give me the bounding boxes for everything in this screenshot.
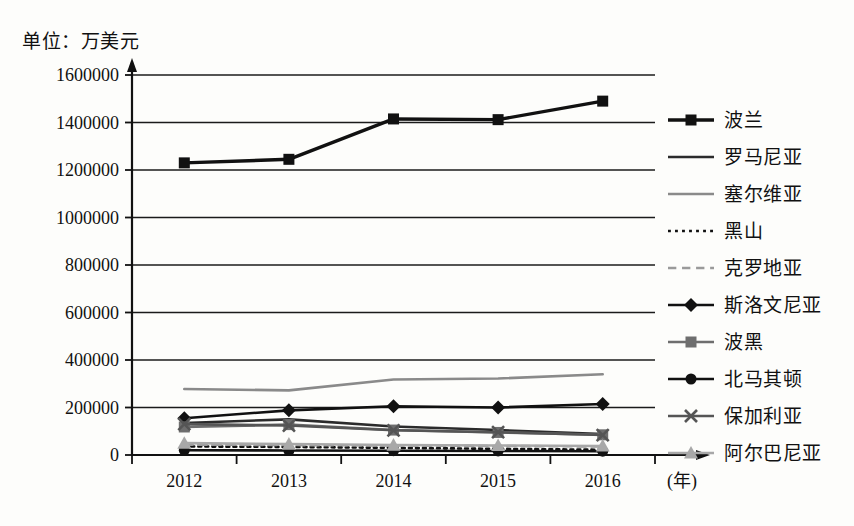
- y-tick-label: 800000: [65, 255, 119, 275]
- legend: 波兰罗马尼亚塞尔维亚黑山克罗地亚斯洛文尼亚波黑北马其顿保加利亚阿尔巴尼亚: [668, 110, 822, 464]
- y-tick-label: 1600000: [56, 65, 119, 85]
- gridlines: [132, 75, 655, 408]
- series-line: [184, 101, 602, 163]
- legend-item-4[interactable]: 克罗地亚: [668, 258, 802, 279]
- series-2: [184, 374, 602, 390]
- data-point-square: [388, 113, 399, 124]
- y-axis-ticks: 0200000400000600000800000100000012000001…: [56, 65, 132, 465]
- legend-label: 波兰: [724, 110, 763, 131]
- legend-label: 阿尔巴尼亚: [724, 443, 822, 464]
- x-tick-label: 2014: [376, 471, 412, 491]
- data-series: [177, 96, 609, 457]
- x-tick-label: 2013: [271, 471, 307, 491]
- data-point-diamond: [684, 298, 698, 312]
- y-tick-label: 0: [110, 445, 119, 465]
- legend-item-9[interactable]: 阿尔巴尼亚: [668, 443, 822, 464]
- x-tick-label: 2015: [480, 471, 516, 491]
- data-point-diamond: [387, 399, 401, 413]
- data-point-square: [686, 337, 697, 348]
- legend-label: 罗马尼亚: [724, 147, 802, 168]
- legend-label: 波黑: [724, 332, 763, 353]
- x-axis-ticks: 20122013201420152016(年): [132, 455, 697, 492]
- x-tick-label: 2016: [585, 471, 621, 491]
- series-line: [184, 374, 602, 390]
- data-point-square: [493, 114, 504, 125]
- data-point-square: [686, 115, 697, 126]
- legend-label: 黑山: [724, 221, 763, 242]
- x-tick-label: 2012: [166, 471, 202, 491]
- data-point-square: [179, 157, 190, 168]
- y-tick-label: 600000: [65, 303, 119, 323]
- legend-item-5[interactable]: 斯洛文尼亚: [668, 295, 822, 316]
- data-point-diamond: [596, 397, 610, 411]
- legend-item-2[interactable]: 塞尔维亚: [668, 184, 802, 205]
- legend-item-6[interactable]: 波黑: [668, 332, 763, 353]
- y-tick-label: 200000: [65, 398, 119, 418]
- legend-label: 塞尔维亚: [724, 184, 802, 205]
- legend-label: 斯洛文尼亚: [724, 295, 822, 316]
- x-axis-arrow: [696, 450, 710, 460]
- data-point-diamond: [282, 403, 296, 417]
- line-chart: 0200000400000600000800000100000012000001…: [0, 0, 854, 526]
- data-point-square: [597, 96, 608, 107]
- data-point-square: [283, 154, 294, 165]
- legend-label: 北马其顿: [724, 369, 802, 390]
- legend-item-7[interactable]: 北马其顿: [668, 369, 802, 390]
- legend-item-8[interactable]: 保加利亚: [668, 406, 802, 427]
- data-point-circle: [686, 374, 697, 385]
- legend-item-0[interactable]: 波兰: [668, 110, 763, 131]
- y-tick-label: 1200000: [56, 160, 119, 180]
- y-tick-label: 400000: [65, 350, 119, 370]
- legend-item-3[interactable]: 黑山: [668, 221, 763, 242]
- legend-label: 克罗地亚: [724, 258, 802, 279]
- y-tick-label: 1000000: [56, 208, 119, 228]
- chart-page: 单位：万美元 020000040000060000080000010000001…: [0, 0, 854, 526]
- data-point-diamond: [491, 401, 505, 415]
- legend-label: 保加利亚: [724, 406, 802, 427]
- x-axis-unit-label: (年): [667, 471, 697, 492]
- y-tick-label: 1400000: [56, 113, 119, 133]
- y-axis-arrow: [127, 58, 137, 72]
- legend-item-1[interactable]: 罗马尼亚: [668, 147, 802, 168]
- series-0: [179, 96, 608, 169]
